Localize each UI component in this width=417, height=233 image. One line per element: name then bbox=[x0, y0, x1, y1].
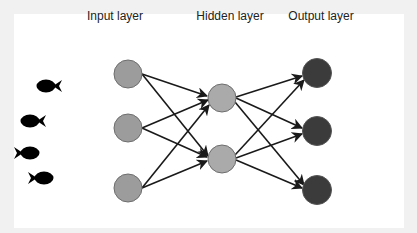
fish-icon bbox=[37, 80, 63, 93]
hidden-node bbox=[208, 145, 236, 173]
hidden-layer-nodes bbox=[208, 84, 236, 173]
fish-icon bbox=[14, 147, 40, 160]
output-node bbox=[303, 117, 332, 146]
input-node bbox=[114, 114, 142, 142]
input-node bbox=[114, 60, 142, 88]
diagram-frame: Input layer Hidden layer Output layer bbox=[0, 0, 417, 233]
edges-hidden-output bbox=[235, 76, 304, 188]
output-node bbox=[303, 176, 332, 205]
fish-icon bbox=[28, 172, 54, 185]
output-node bbox=[303, 59, 332, 88]
fish-icon bbox=[21, 115, 47, 128]
fish-icons bbox=[14, 80, 62, 185]
output-layer-nodes bbox=[303, 59, 332, 205]
input-node bbox=[114, 174, 142, 202]
hidden-node bbox=[208, 84, 236, 112]
input-layer-nodes bbox=[114, 60, 142, 202]
edges-input-hidden bbox=[142, 74, 209, 188]
network-diagram bbox=[0, 0, 417, 233]
